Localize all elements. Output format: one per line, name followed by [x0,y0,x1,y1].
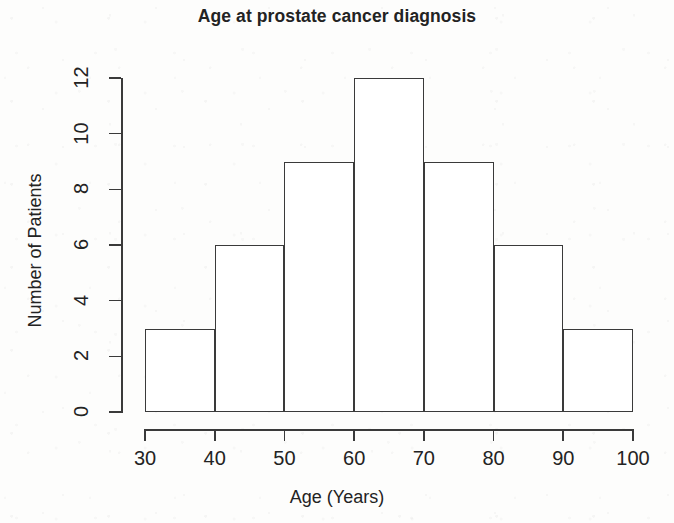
plot-area: 02468101230405060708090100 [0,0,674,523]
x-axis-tick [353,429,355,441]
x-axis-tick [423,429,425,441]
histogram-bar [215,245,285,412]
y-axis-tick-label: 12 [70,55,93,101]
histogram-figure: Age at prostate cancer diagnosis 0246810… [0,0,674,523]
y-axis-title: Number of Patients [25,151,46,351]
y-axis-tick [109,77,121,79]
x-axis-tick-label: 60 [319,447,389,470]
x-axis-tick [493,429,495,441]
y-axis-tick-label: 10 [70,110,93,156]
y-axis-tick-label: 2 [70,333,93,379]
histogram-bar [563,329,633,413]
y-axis-tick [109,356,121,358]
histogram-bar [354,78,424,412]
y-axis-tick [109,244,121,246]
histogram-bar [424,162,494,413]
x-axis-tick [144,429,146,441]
x-axis-tick-label: 80 [459,447,529,470]
x-axis-tick-label: 40 [180,447,250,470]
histogram-bar [145,329,215,413]
x-axis-line [145,429,633,431]
y-axis-tick [109,189,121,191]
x-axis-tick [214,429,216,441]
histogram-bar [284,162,354,413]
x-axis-tick-label: 90 [528,447,598,470]
y-axis-tick [109,411,121,413]
y-axis-tick [109,300,121,302]
y-axis-tick-label: 6 [70,222,93,268]
x-axis-tick-label: 30 [110,447,180,470]
y-axis-tick-label: 8 [70,166,93,212]
y-axis-tick-label: 0 [70,389,93,435]
y-axis-line [121,78,123,413]
histogram-bar [494,245,564,412]
y-axis-tick [109,133,121,135]
x-axis-tick [284,429,286,441]
x-axis-tick-label: 50 [249,447,319,470]
x-axis-tick [632,429,634,441]
x-axis-tick-label: 100 [598,447,668,470]
x-axis-title: Age (Years) [0,487,674,508]
x-axis-tick [562,429,564,441]
x-axis-tick-label: 70 [389,447,459,470]
y-axis-tick-label: 4 [70,277,93,323]
